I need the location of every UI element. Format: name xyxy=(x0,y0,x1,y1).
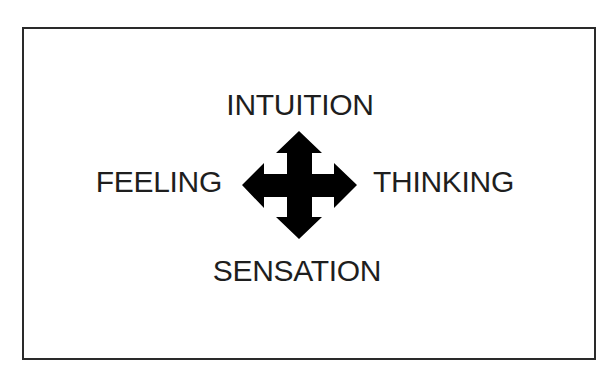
label-thinking: THINKING xyxy=(373,167,514,197)
four-way-arrow-icon xyxy=(240,129,360,241)
label-intuition: INTUITION xyxy=(0,90,600,120)
label-sensation: SENSATION xyxy=(0,256,594,286)
label-feeling: FEELING xyxy=(96,167,222,197)
